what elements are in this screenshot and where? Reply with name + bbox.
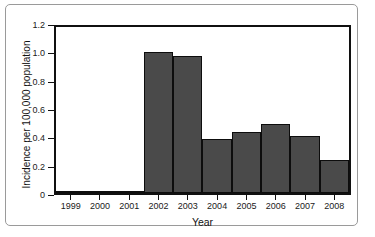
bar-cell [290,27,319,193]
x-tick-mark [305,195,306,200]
y-tick-label: 0.6 [32,106,45,115]
x-tick-mark [187,195,188,200]
y-tick-label: 1.0 [32,49,45,58]
x-tick-label: 2008 [320,202,349,211]
y-tick-label: 0.8 [32,78,45,87]
bar-2003[interactable] [173,56,202,193]
bar-cell [232,27,261,193]
x-tick-mark [334,195,335,200]
bar-cell [202,27,231,193]
bar-cell [144,27,173,193]
x-tick-mark [158,195,159,200]
bar-cell [320,27,349,193]
y-axis-title: Incidence per 100,000 population [21,27,32,203]
bar-2005[interactable] [232,132,261,193]
x-tick-mark [246,195,247,200]
x-tick-label: 2001 [115,202,144,211]
y-tick-label: 1.2 [32,21,45,30]
bar-1999[interactable] [56,191,85,193]
y-tick-label: 0.2 [32,163,45,172]
x-tick-label: 2000 [85,202,114,211]
bar-2001[interactable] [115,191,144,193]
bar-2008[interactable] [320,160,349,193]
bar-2004[interactable] [202,139,231,193]
x-tick-label: 2002 [144,202,173,211]
x-axis-title: Year [54,216,351,228]
bar-series [56,27,349,193]
x-tick-mark [217,195,218,200]
figure-card: Incidence per 100,000 population 1.2 1.0… [5,4,358,226]
x-tick-mark [99,195,100,200]
bar-cell [115,27,144,193]
bar-2002[interactable] [144,52,173,193]
y-tick-label: 0 [40,191,45,200]
x-tick-mark [129,195,130,200]
x-axis-labels: 1999 2000 2001 2002 2003 2004 2005 2006 … [56,202,349,211]
bar-cell [261,27,290,193]
x-tick-mark [275,195,276,200]
x-tick-label: 2005 [232,202,261,211]
x-tick-label: 1999 [56,202,85,211]
x-tick-label: 2007 [290,202,319,211]
bar-2000[interactable] [85,191,114,193]
x-tick-label: 2004 [202,202,231,211]
bar-cell [56,27,85,193]
x-tick-label: 2006 [261,202,290,211]
x-tick-label: 2003 [173,202,202,211]
bar-2007[interactable] [290,136,319,193]
bar-cell [85,27,114,193]
y-tick-label: 0.4 [32,134,45,143]
x-tick-mark [70,195,71,200]
bar-cell [173,27,202,193]
bar-2006[interactable] [261,124,290,193]
y-tick-mark [48,195,54,196]
